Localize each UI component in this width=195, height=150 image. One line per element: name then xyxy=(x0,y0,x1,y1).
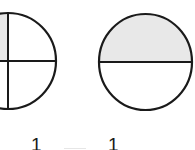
fraction-diagram xyxy=(0,0,195,150)
shaded-half xyxy=(99,15,192,62)
halves-circle xyxy=(99,14,192,110)
shaded-quarter xyxy=(0,13,8,61)
numerator-label-right: 1 xyxy=(108,135,119,150)
numerator-label-left: 1 xyxy=(31,135,42,150)
quarters-circle xyxy=(0,13,56,109)
faint-mark xyxy=(64,148,86,149)
